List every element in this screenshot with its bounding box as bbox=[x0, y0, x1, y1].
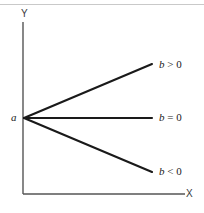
line-label-relation: = 0 bbox=[165, 111, 182, 123]
intercept-label-a: a bbox=[11, 112, 17, 123]
line-label-b-positive: b > 0 bbox=[159, 59, 182, 70]
line-label-b-zero: b = 0 bbox=[159, 112, 182, 123]
line-label-relation: > 0 bbox=[165, 58, 182, 70]
slope-line-negative bbox=[24, 118, 152, 172]
y-axis-label: Y bbox=[21, 9, 28, 19]
x-axis-label: X bbox=[186, 189, 193, 199]
plot-area bbox=[0, 0, 204, 213]
line-label-relation: < 0 bbox=[165, 165, 182, 177]
slope-line-positive bbox=[24, 64, 152, 118]
line-label-b-negative: b < 0 bbox=[159, 166, 182, 177]
regression-slope-diagram: Y X a b > 0 b = 0 b < 0 bbox=[0, 0, 204, 213]
